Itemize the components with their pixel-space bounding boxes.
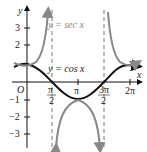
y-tick-neg2: −2 <box>9 111 20 122</box>
cos-label: y = cos x <box>47 63 85 74</box>
y-tick-neg3: −3 <box>9 128 20 139</box>
y-tick-2: 2 <box>15 39 20 50</box>
x-tick-pi-half-den: 2 <box>49 95 54 106</box>
x-tick-2pi: 2π <box>125 85 135 96</box>
x-tick-3pi-half-den: 2 <box>101 95 106 106</box>
y-tick-3: 3 <box>15 22 20 33</box>
y-axis-label: y <box>17 5 23 16</box>
sec-cos-graph: y x 3 2 −1 −2 −3 O π 2 π 3π 2 2π y = sec… <box>0 0 147 152</box>
origin-label: O <box>17 84 24 95</box>
x-tick-pi: π <box>74 85 79 96</box>
y-tick-neg1: −1 <box>9 94 20 105</box>
x-tick-pi-half-num: π <box>48 84 53 95</box>
sec-curve-right <box>108 12 137 65</box>
sec-curve-middle <box>56 100 100 148</box>
sec-label: y = sec x <box>47 19 84 30</box>
x-axis-label: x <box>136 69 142 80</box>
